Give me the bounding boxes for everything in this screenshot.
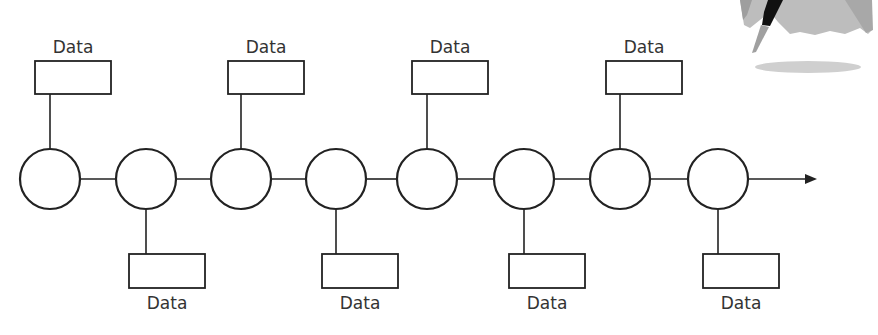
data-box-bottom-2: [322, 254, 398, 288]
timeline-node-3: [211, 149, 271, 209]
timeline-diagram: Data Data Data Data Data Data Data Data: [0, 0, 878, 335]
data-label-bottom-2: Data: [340, 293, 381, 313]
timeline-node-5: [397, 149, 457, 209]
timeline-node-4: [306, 149, 366, 209]
data-box-bottom-1: [129, 254, 205, 288]
data-label-top-4: Data: [624, 37, 665, 57]
data-box-bottom-3: [509, 254, 585, 288]
diagram-canvas: Data Data Data Data Data Data Data Data: [0, 0, 878, 335]
arrow-head-icon: [805, 174, 817, 184]
data-label-top-3: Data: [430, 37, 471, 57]
data-label-bottom-3: Data: [527, 293, 568, 313]
timeline-node-6: [494, 149, 554, 209]
data-box-top-4: [606, 61, 682, 94]
timeline-node-1: [20, 149, 80, 209]
data-label-bottom-4: Data: [721, 293, 762, 313]
data-label-bottom-1: Data: [147, 293, 188, 313]
data-label-top-1: Data: [53, 37, 94, 57]
data-box-top-1: [35, 61, 111, 94]
timeline-node-7: [590, 149, 650, 209]
timeline-node-2: [116, 149, 176, 209]
data-box-top-3: [412, 61, 488, 94]
data-box-top-2: [228, 61, 304, 94]
data-label-top-2: Data: [246, 37, 287, 57]
shadow-ellipse: [755, 61, 861, 73]
timeline-node-8: [688, 149, 748, 209]
figure-illustration: [740, 0, 873, 73]
data-box-bottom-4: [703, 254, 779, 288]
